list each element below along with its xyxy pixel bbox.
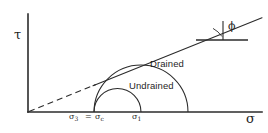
mohr-circle-figure: τ σ ϕ Drained Undrained σ3 = σc σ1	[0, 0, 268, 133]
undrained-mohr-circle	[94, 89, 141, 113]
drained-circle-label: Drained	[150, 59, 184, 69]
tau-axis-label: τ	[14, 28, 21, 41]
failure-envelope-solid	[93, 18, 262, 86]
sigma-axis-label: σ	[246, 112, 255, 125]
sigma3-subscript: 3	[74, 115, 78, 122]
equals-sign-label: =	[85, 113, 92, 121]
failure-envelope-dashed	[29, 85, 96, 112]
sigma-c-tick-label: σc	[95, 113, 104, 121]
sigma1-tick-label: σ1	[132, 113, 141, 121]
sigma-c-subscript: c	[100, 115, 103, 122]
phi-angle-label: ϕ	[228, 21, 236, 32]
sigma3-tick-label: σ3	[69, 113, 78, 121]
sigma1-subscript: 1	[137, 115, 141, 122]
undrained-circle-label: Undrained	[129, 81, 174, 91]
